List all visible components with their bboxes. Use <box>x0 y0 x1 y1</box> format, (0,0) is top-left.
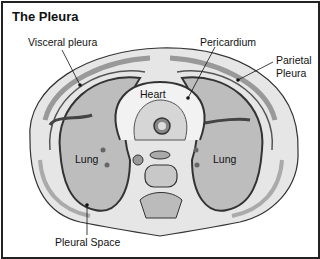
label-heart: Heart <box>140 88 166 100</box>
vertebra <box>145 165 177 187</box>
label-parietal-line2: Pleura <box>276 67 306 79</box>
label-pericardium: Pericardium <box>200 36 256 48</box>
diagram-title: The Pleura <box>12 9 78 24</box>
label-lung-left: Lung <box>75 153 98 165</box>
label-parietal-line1: Parietal <box>276 54 312 66</box>
label-lung-right: Lung <box>213 153 236 165</box>
label-pleural-space: Pleural Space <box>55 236 120 248</box>
label-visceral-pleura: Visceral pleura <box>28 36 97 48</box>
